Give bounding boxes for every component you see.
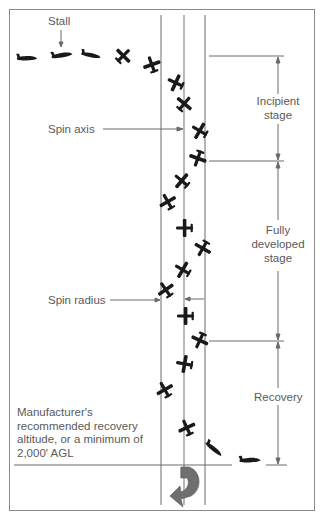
airplane-icon	[188, 119, 212, 143]
stall-pointer-arrow	[59, 30, 63, 47]
airplane-icon	[153, 378, 177, 402]
airplane-icon	[186, 147, 209, 169]
airplane-icon	[16, 54, 37, 61]
airplane-icon	[140, 53, 163, 75]
airplane-icon	[177, 307, 194, 325]
airplane-icon	[204, 439, 224, 458]
spin-radius-label: Spin radius	[48, 293, 106, 307]
spin-axis-pointer	[103, 127, 183, 131]
airplane-icon	[175, 354, 195, 375]
airplane-icon	[153, 277, 177, 301]
airplane-icon	[169, 168, 194, 193]
recovery-altitude-note: Manufacturer's recommended recovery alti…	[17, 406, 143, 460]
aircraft-sequence	[16, 43, 260, 463]
fully-developed-stage-label: Fully developed stage	[246, 223, 310, 265]
airplane-icon	[175, 416, 198, 439]
airplane-icon	[156, 190, 180, 214]
recovery-label: Recovery	[254, 390, 303, 404]
spin-radius-pointer	[110, 297, 204, 302]
airplane-icon	[191, 237, 215, 261]
airplane-icon	[188, 329, 211, 352]
airplane-icon	[176, 219, 193, 237]
airplane-icon	[111, 43, 136, 68]
airplane-icon	[239, 455, 261, 463]
spin-axis-label: Spin axis	[48, 122, 95, 136]
incipient-stage-label: Incipient stage	[250, 94, 306, 122]
airplane-icon	[171, 258, 195, 282]
airplane-icon	[80, 49, 101, 60]
airplane-icon	[50, 49, 73, 59]
stall-label: Stall	[48, 14, 70, 28]
